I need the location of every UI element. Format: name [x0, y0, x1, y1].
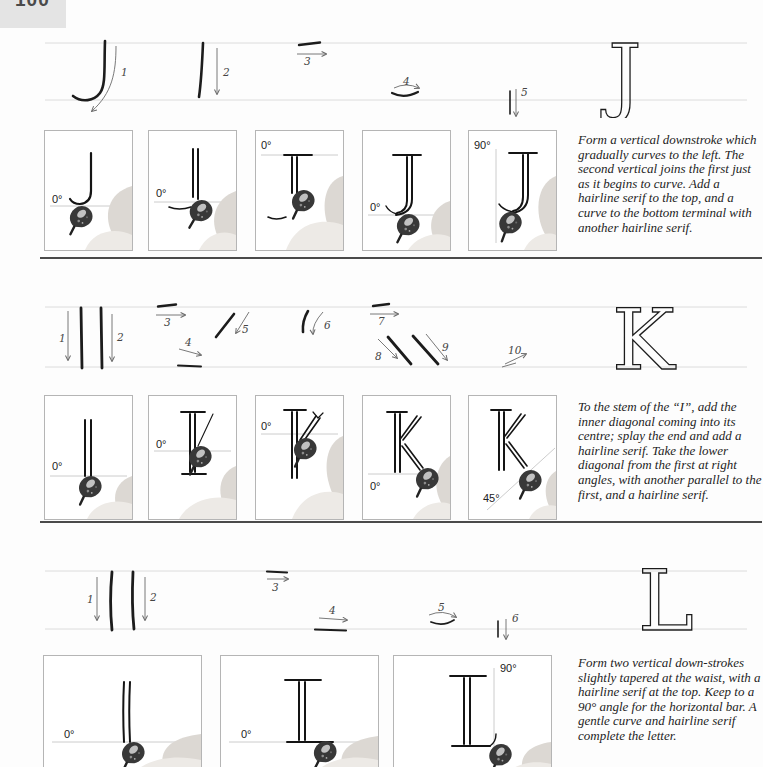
section-divider [40, 521, 762, 523]
step-label: 2 [222, 66, 230, 78]
step-label: 4 [184, 336, 192, 348]
pen-nib-icon [482, 740, 517, 767]
pen-nib-icon [72, 473, 106, 505]
finger [179, 497, 236, 519]
finger [408, 234, 450, 250]
finger [529, 505, 556, 519]
pen-nib-icon [115, 739, 149, 767]
finger [292, 492, 343, 519]
photo-panel: 0° [148, 130, 237, 251]
section-divider [40, 257, 762, 259]
step-label: 1 [59, 332, 66, 344]
step-label: 1 [121, 66, 128, 78]
instruction-text-K: To the stem of the “I”, add the inner di… [578, 400, 763, 502]
pen-angle-label: 0° [52, 193, 63, 205]
step-label: 3 [164, 316, 171, 328]
pen-angle-label: 0° [261, 420, 272, 432]
svg-text:L: L [638, 553, 694, 643]
finger [413, 503, 450, 519]
step-label: 2 [149, 591, 157, 603]
finger [199, 232, 236, 250]
photo-panel: 90° [468, 130, 557, 251]
pen-angle-label: 90° [474, 139, 491, 151]
step-label: 5 [521, 86, 528, 98]
finger [286, 222, 343, 250]
pen-nib-icon [492, 208, 527, 241]
page-number-tab: 100 [0, 0, 66, 28]
step-label: 7 [378, 315, 385, 327]
step-label: 8 [375, 350, 382, 362]
finger [87, 501, 132, 519]
photo-panel: 0° [220, 655, 379, 767]
instruction-text-J: Form a vertical downstroke which gradual… [578, 133, 763, 235]
pen-angle-label: 0° [156, 438, 167, 450]
photo-panel: 0° [255, 395, 344, 520]
step-label: 9 [442, 341, 449, 353]
photo-panel: 0° [362, 395, 451, 520]
pen-angle-label: 0° [156, 187, 167, 199]
photo-panel: 0° [255, 130, 344, 251]
step-label: 5 [242, 323, 249, 335]
photo-panel: 45° [468, 395, 557, 520]
pen-angle-label: 45° [483, 492, 500, 504]
page-number: 100 [15, 0, 50, 11]
step-label: 5 [438, 601, 445, 613]
step-label: 4 [402, 75, 410, 87]
pen-nib-icon [390, 211, 423, 242]
photo-panel: 0° [362, 130, 451, 251]
svg-text:K: K [612, 291, 677, 380]
step-label: 2 [116, 331, 124, 343]
pen-angle-label: 0° [370, 480, 381, 492]
step-label: 6 [324, 319, 331, 331]
step-label: 10 [508, 344, 522, 356]
finger [85, 231, 132, 250]
pen-angle-label: 0° [261, 139, 272, 151]
step-label: 4 [328, 604, 336, 616]
pen-nib-icon [63, 203, 96, 234]
finger [506, 762, 551, 767]
pen-nib-icon [182, 443, 216, 475]
specimen-letter-K: K [606, 290, 691, 380]
pen-angle-label: 0° [64, 728, 75, 740]
specimen-letter-J: J [596, 28, 671, 118]
svg-text:J: J [600, 28, 642, 118]
book-page: 100 1 2 3 4 5 J 0° [0, 0, 763, 767]
pen-angle-label: 0° [52, 460, 63, 472]
pen-angle-label: 90° [500, 662, 517, 674]
photo-panel: 0° [43, 655, 202, 767]
photo-panel: 90° [393, 655, 552, 767]
step-label: 1 [87, 593, 94, 605]
pen-nib-icon [285, 187, 319, 219]
pen-angle-label: 0° [370, 201, 381, 213]
step-label: 3 [272, 581, 279, 593]
pen-angle-label: 0° [241, 728, 252, 740]
photo-panel: 0° [148, 395, 237, 520]
finger [524, 234, 556, 250]
specimen-letter-L: L [628, 553, 703, 643]
instruction-text-L: Form two vertical down-strokes slightly … [578, 656, 763, 744]
finger [132, 757, 201, 767]
step-label: 6 [512, 612, 519, 624]
photo-panel: 0° [44, 130, 133, 251]
step-label: 3 [304, 55, 311, 67]
photo-panel: 0° [44, 395, 133, 520]
